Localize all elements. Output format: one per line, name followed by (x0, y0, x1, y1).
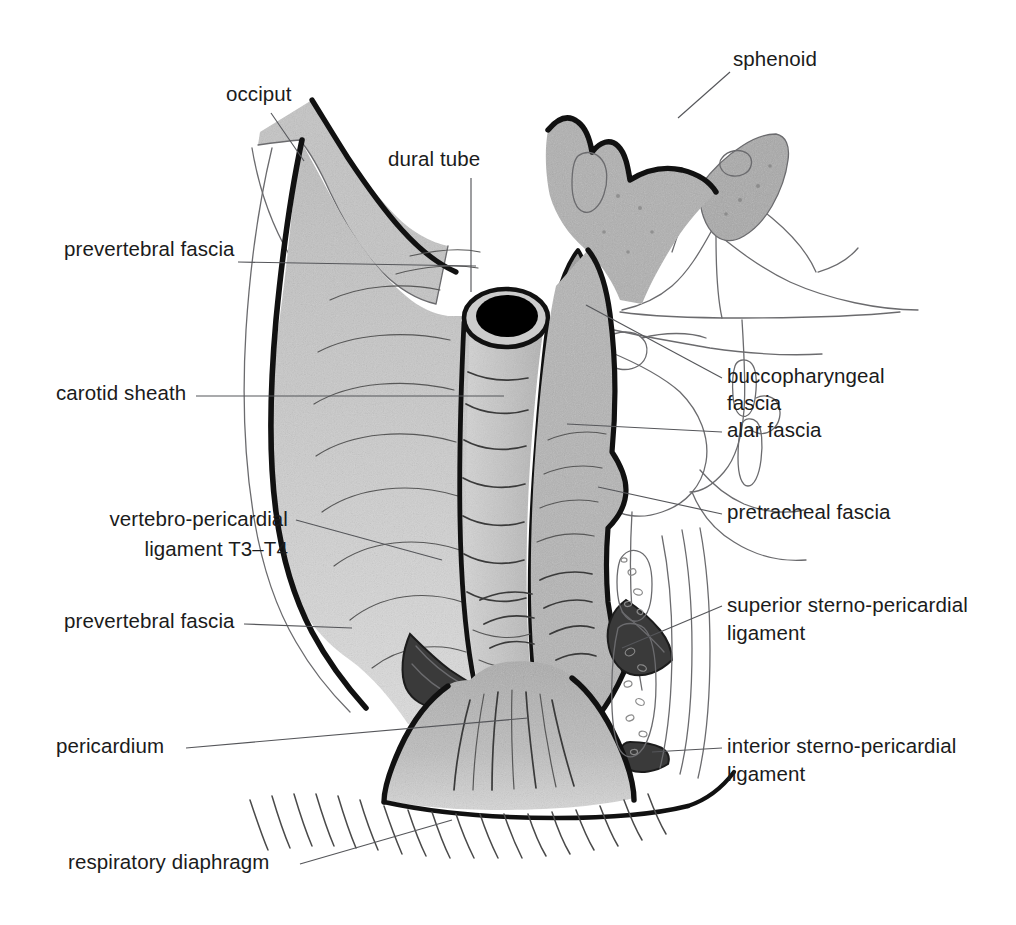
label-superior-sterno-pericardial-line1: superior sterno-pericardial (727, 593, 968, 616)
label-vertebro-pericardial-line2: ligament T3–T4 (145, 537, 288, 560)
label-interior-sterno-pericardial-line2: ligament (727, 762, 805, 785)
label-occiput: occiput (226, 82, 292, 105)
label-carotid-sheath: carotid sheath (56, 381, 186, 404)
anatomy-figure: occiput dural tube sphenoid prevertebral… (0, 0, 1016, 925)
label-prevertebral-fascia-lower: prevertebral fascia (64, 609, 235, 632)
label-vertebro-pericardial-line1: vertebro-pericardial (109, 507, 288, 530)
label-pericardium: pericardium (56, 734, 164, 757)
label-interior-sterno-pericardial-line1: interior sterno-pericardial (727, 734, 956, 757)
superior-sterno-pericardial-ligament (608, 600, 672, 675)
label-pretracheal-fascia: pretracheal fascia (727, 500, 891, 523)
leader-sphenoid (678, 72, 730, 118)
leader-respiratory-diaphragm (300, 820, 452, 864)
label-buccopharyngeal-fascia-line1: buccopharyngeal (727, 364, 885, 387)
anatomy-diagram-canvas: occiput dural tube sphenoid prevertebral… (0, 0, 1016, 925)
label-prevertebral-fascia-upper: prevertebral fascia (64, 237, 235, 260)
label-alar-fascia: alar fascia (727, 418, 822, 441)
label-superior-sterno-pericardial-line2: ligament (727, 621, 805, 644)
label-respiratory-diaphragm: respiratory diaphragm (68, 850, 270, 873)
label-sphenoid: sphenoid (733, 47, 817, 70)
label-buccopharyngeal-fascia-line2: fascia (727, 391, 782, 414)
label-dural-tube: dural tube (388, 147, 480, 170)
